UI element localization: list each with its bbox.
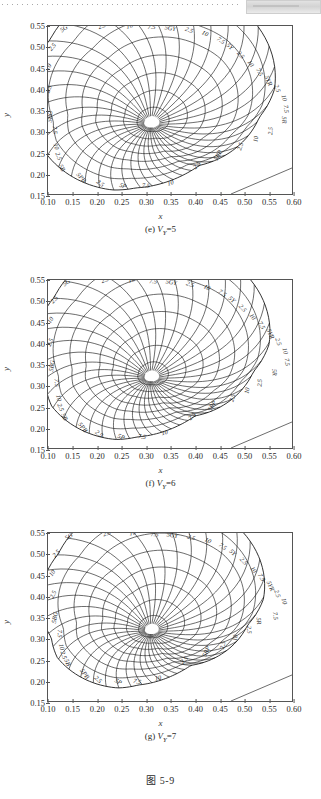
hue-label: 7.5: [257, 320, 267, 330]
hue-label: 10: [55, 394, 64, 403]
panel-caption-e: (e) VY=5: [0, 224, 321, 236]
hue-line: [159, 285, 254, 376]
y-tick-f-4: 0.35: [30, 360, 45, 370]
x-tick-e-3: 0.25: [114, 197, 129, 207]
hue-line: [157, 106, 267, 134]
y-tick-e-3: 0.40: [30, 85, 45, 95]
hue-line: [159, 27, 258, 122]
scan-artifact-gray-box: [246, 0, 321, 14]
x-tick-g-9: 0.55: [262, 704, 277, 714]
hue-label: 5PB: [79, 667, 91, 680]
hue-label: 10: [48, 61, 53, 71]
figure-number: 图 5-9: [0, 772, 321, 787]
hue-line: [147, 533, 177, 624]
y-tick-e-0: 0.55: [30, 21, 45, 31]
plot-frame-g: 0.550.500.450.400.350.300.250.200.15 0.1…: [47, 532, 293, 702]
x-tick-e-6: 0.40: [188, 197, 203, 207]
hue-label: 10: [129, 533, 137, 537]
hue-label: 10: [154, 674, 162, 682]
hue-line: [48, 327, 146, 373]
hue-line: [53, 375, 144, 408]
figure-panel-f: y 0.550.500.450.400.350.300.250.200.15 0…: [0, 268, 321, 480]
y-tick-f-7: 0.20: [30, 424, 45, 434]
hue-label: 2.5: [186, 411, 197, 422]
hue-line: [48, 370, 145, 395]
hue-label: 5BG: [48, 359, 56, 372]
munsell-chart-e: 5G2.5102.55BG7.5102.55B2.5107.55GY2.5107…: [48, 26, 292, 194]
x-tick-mark: [294, 446, 295, 450]
chroma-contour-16: [48, 280, 270, 439]
hue-line: [158, 342, 269, 382]
chroma-contour-16: [48, 533, 265, 688]
x-tick-e-8: 0.50: [237, 197, 252, 207]
hue-line: [48, 97, 145, 121]
hue-label: 7.5: [133, 677, 142, 686]
hue-label: 7.5: [257, 572, 267, 582]
x-tick-e-4: 0.30: [139, 197, 154, 207]
hue-label: 7.5: [150, 533, 158, 537]
hue-label: 5R: [271, 369, 278, 377]
hue-label: 2.5: [273, 83, 282, 93]
hue-label: 5GY: [165, 280, 179, 286]
hue-label: 10: [280, 597, 289, 606]
hue-line: [48, 569, 147, 625]
purple-line-chord: [231, 168, 292, 194]
hue-line: [144, 381, 162, 432]
x-tick-f-4: 0.30: [139, 451, 154, 461]
y-tick-e-2: 0.45: [30, 64, 45, 74]
hue-label: 5P: [119, 181, 128, 190]
hue-label: 2.5: [266, 127, 274, 135]
hue-label: 2.5: [256, 379, 263, 387]
hue-label: 2.5: [97, 26, 107, 30]
hue-label: 5PB: [77, 421, 89, 434]
chroma-contour-12: [70, 280, 249, 420]
hue-label: 7.5: [217, 288, 228, 298]
hue-line: [93, 633, 145, 683]
hue-label: 10: [126, 26, 134, 30]
panel-caption-value-e: =5: [166, 224, 176, 234]
hue-label: 2.5: [48, 41, 57, 52]
x-axis-title-g: x: [0, 718, 321, 728]
hue-label: 2.5: [185, 280, 195, 289]
x-tick-f-9: 0.55: [262, 451, 277, 461]
x-tick-e-9: 0.55: [262, 197, 277, 207]
hue-label: 2.5: [102, 533, 112, 537]
panel-caption-index-g: (g): [145, 731, 156, 741]
plot-area-e: y 0.550.500.450.400.350.300.250.200.15 0…: [0, 14, 321, 226]
plot-frame-f: 0.550.500.450.400.350.300.250.200.15 0.1…: [47, 279, 293, 449]
hue-label: 5G: [63, 533, 74, 541]
hue-label: 7.5: [57, 630, 64, 638]
hue-label: 7.5: [284, 358, 292, 367]
panel-caption-g: (g) VY=7: [0, 731, 321, 743]
hue-line: [48, 595, 146, 627]
y-tick-e-1: 0.50: [30, 42, 45, 52]
chart-network-e: [48, 26, 292, 194]
hue-line: [53, 623, 145, 646]
x-tick-e-0: 0.10: [41, 197, 56, 207]
hue-label: 7.5: [218, 541, 229, 551]
y-tick-g-0: 0.55: [30, 528, 45, 538]
hue-label: 10: [161, 428, 170, 436]
y-tick-g-3: 0.40: [30, 592, 45, 602]
hue-label: 2.5: [184, 26, 194, 34]
y-tick-e-7: 0.20: [30, 170, 45, 180]
x-tick-e-5: 0.35: [164, 197, 179, 207]
figure-panel-g: y 0.550.500.450.400.350.300.250.200.15 0…: [0, 521, 321, 733]
hue-label: 2.5: [273, 589, 282, 599]
hue-label: 2.5: [49, 294, 60, 305]
hue-label: 10: [281, 94, 289, 103]
hue-label: 2.5: [186, 533, 196, 542]
y-tick-f-0: 0.55: [30, 275, 45, 285]
hue-label: 2.5: [228, 393, 237, 403]
y-tick-g-1: 0.50: [30, 549, 45, 559]
x-tick-g-8: 0.50: [237, 704, 252, 714]
panel-caption-value-g: =7: [167, 731, 177, 741]
x-tick-e-7: 0.45: [213, 197, 228, 207]
hue-label: 7.5: [142, 181, 150, 188]
hue-label: 7.5: [255, 67, 265, 77]
hue-label: 10: [248, 312, 258, 322]
hue-label: 10: [282, 347, 290, 356]
hue-line: [156, 280, 193, 372]
x-tick-e-2: 0.20: [90, 197, 105, 207]
x-tick-g-1: 0.15: [65, 704, 80, 714]
